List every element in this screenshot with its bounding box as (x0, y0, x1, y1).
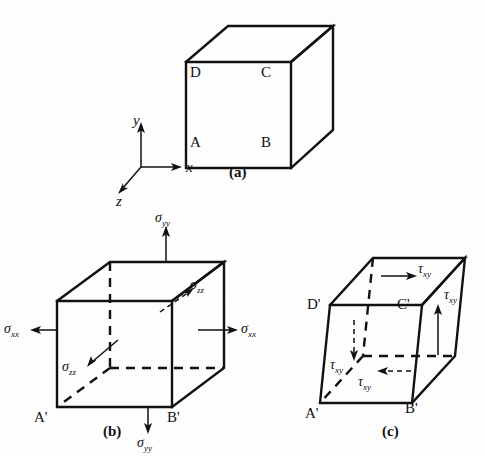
axis-z-line (122, 167, 141, 189)
axis-label-y: y (133, 113, 140, 128)
vertex-label-c: C (261, 65, 271, 80)
coordinate-axes (118, 122, 182, 194)
vertex-label-d: D (190, 65, 201, 80)
stress-label-sigma-yy-top: σyy (155, 211, 170, 228)
axis-label-z: z (116, 194, 122, 209)
cube-c-geometry (320, 258, 465, 403)
vertex-label-a-prime-b: A' (34, 410, 48, 425)
vertex-label-b-prime-b: B' (167, 410, 180, 425)
stress-label-sigma-yy-bottom: σyy (137, 436, 152, 453)
cube-a-geometry (186, 26, 333, 168)
stress-label-tau-xy-left: τxy (330, 358, 343, 375)
axis-label-x: x (186, 160, 193, 175)
arrow-tau-xy-right (434, 304, 442, 355)
arrow-sigma-zz-inner (87, 340, 118, 367)
arrow-sigma-xx-left (30, 326, 57, 334)
vertex-label-a: A (190, 135, 201, 150)
arrow-tau-xy-top (381, 272, 417, 280)
stress-label-sigma-xx-left: σxx (4, 322, 19, 339)
figure-canvas (0, 0, 485, 456)
vertex-label-c-prime: C' (397, 297, 410, 312)
vertex-label-b: B (261, 135, 271, 150)
arrow-sigma-xx-right (198, 326, 238, 334)
caption-b: (b) (103, 424, 121, 439)
arrow-tau-xy-bottom (377, 367, 411, 375)
vertex-label-a-prime-c: A' (305, 406, 319, 421)
cube-b-front-face (57, 301, 172, 407)
arrow-tau-xy-left (350, 320, 358, 361)
stress-label-sigma-xx-right: σxx (241, 322, 256, 339)
stress-label-tau-xy-bottom: τxy (358, 375, 371, 392)
vertex-label-b-prime-c: B' (405, 401, 418, 416)
vertex-label-d-prime: D' (307, 297, 321, 312)
stress-label-sigma-zz-outer: σzz (190, 278, 204, 295)
stress-label-tau-xy-top: τxy (418, 262, 431, 279)
cube-a-front-face (186, 62, 291, 168)
cube-c-hidden-vertical (363, 258, 373, 356)
arrow-sigma-yy-bottom (144, 407, 152, 434)
stress-label-sigma-zz-inner: σzz (62, 360, 76, 377)
caption-a: (a) (229, 165, 247, 180)
caption-c: (c) (382, 424, 399, 439)
arrow-sigma-yy-top (162, 226, 170, 262)
stress-label-tau-xy-right: τxy (444, 288, 457, 305)
cube-a-right-face (291, 26, 333, 168)
stress-element-figure: D C A B y x z (a) (b) (c) A' B' σyy σyy … (0, 0, 485, 456)
